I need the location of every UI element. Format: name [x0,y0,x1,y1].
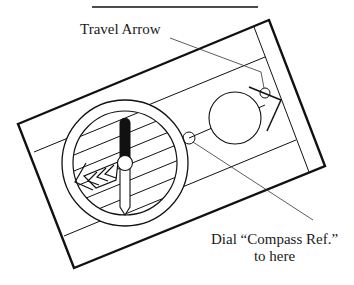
needle-pivot [118,156,133,171]
magnifier-circle [209,92,261,144]
dial-label-line-1: Dial “Compass Ref.” [211,231,338,248]
needle-south [120,164,130,215]
dial-compass-ref-label: Dial “Compass Ref.” to here [211,231,338,265]
dial-label-line-2: to here [211,248,338,265]
travel-arrow-label: Travel Arrow [80,21,161,38]
